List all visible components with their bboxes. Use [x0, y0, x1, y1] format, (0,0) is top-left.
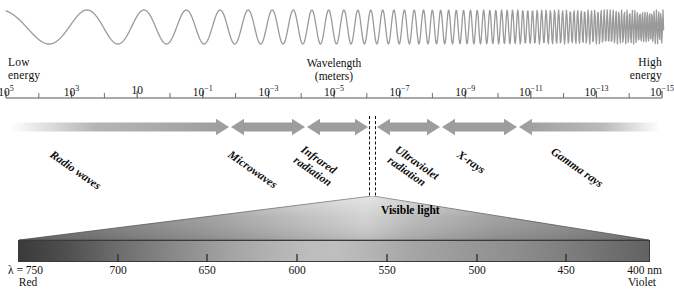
- nm-tick-label: 550: [378, 264, 395, 277]
- axis-tick-label: 103: [64, 84, 80, 98]
- axis-tick-label: 10−13: [584, 84, 608, 98]
- visible-light-funnel: [0, 196, 668, 246]
- band-arrow: [231, 119, 305, 135]
- band-label: Microwaves: [226, 148, 280, 191]
- band-arrow: [519, 119, 660, 135]
- nm-tick-label: 650: [198, 264, 215, 277]
- nm-tick-label: 450: [557, 264, 574, 277]
- band-arrow: [442, 119, 517, 135]
- band-label: Radio waves: [48, 148, 104, 193]
- axis-tick-label: 10−1: [193, 84, 213, 98]
- band-label: Infrared radiation: [291, 143, 342, 189]
- axis-tick-label: 10−3: [258, 84, 278, 98]
- visible-light-label: Visible light: [381, 204, 440, 216]
- red-endpoint-label: Red: [19, 276, 38, 289]
- wavelength-axis-caption: Wavelength (meters): [0, 57, 668, 82]
- visible-spectrum-ticks: [0, 240, 668, 266]
- band-arrow: [10, 119, 229, 135]
- band-arrow: [377, 119, 440, 135]
- axis-tick-label: 10−15: [650, 84, 674, 98]
- band-label: Ultraviolet radiation: [385, 143, 441, 193]
- axis-tick-label: 10−7: [390, 84, 410, 98]
- axis-tick-label: 10: [131, 84, 143, 96]
- nm-tick-label: 500: [468, 264, 485, 277]
- violet-endpoint-label: Violet: [628, 276, 656, 289]
- spectrum-band-arrows: [0, 116, 668, 138]
- axis-tick-label: 10−5: [324, 84, 344, 98]
- band-label: X-rays: [455, 148, 488, 177]
- band-label: Gamma rays: [549, 145, 606, 190]
- wave-illustration: [0, 0, 668, 56]
- nm-tick-label: 600: [288, 264, 305, 277]
- axis-tick-label: 10−9: [455, 84, 475, 98]
- axis-tick-label: 10−11: [519, 84, 543, 98]
- nm-tick-label: 700: [109, 264, 126, 277]
- band-arrow: [307, 119, 368, 135]
- axis-tick-label: 105: [0, 84, 14, 98]
